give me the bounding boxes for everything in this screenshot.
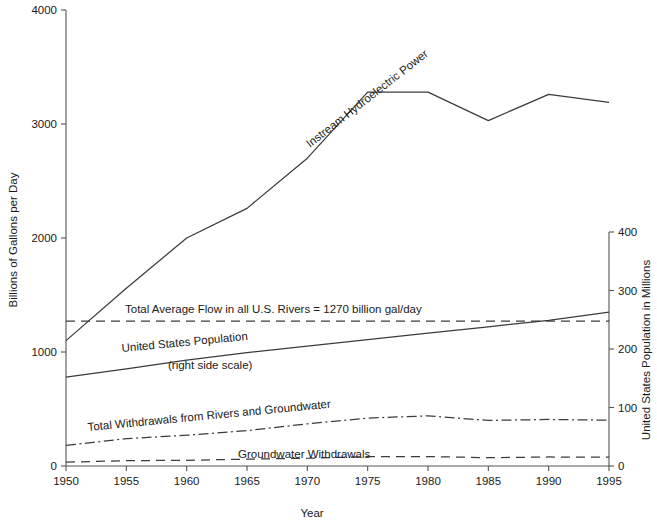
y-tick-label-right: 100 <box>618 402 637 414</box>
y-tick-label-left: 1000 <box>31 346 57 358</box>
y-tick-label-right: 300 <box>618 285 637 297</box>
annotation-population-sublabel: (right side scale) <box>168 359 253 371</box>
x-tick-label: 1970 <box>295 475 321 487</box>
y-tick-label-left: 3000 <box>31 118 57 130</box>
x-axis-title: Year <box>300 507 323 519</box>
annotation-withdrawals-label: Total Withdrawals from Rivers and Ground… <box>87 398 331 433</box>
x-tick-label: 1965 <box>234 475 260 487</box>
y-tick-label-left: 4000 <box>31 4 57 16</box>
y-axis-right-title: United States Population in Millions <box>640 260 652 441</box>
y-tick-label-right: 400 <box>618 226 637 238</box>
annotation-avgflow-label: Total Average Flow in all U.S. Rivers = … <box>125 303 422 315</box>
axes-group <box>66 10 609 466</box>
annotation-population-label: United States Population <box>121 330 248 354</box>
annotation-hydro-label: Instream Hydroelectric Power <box>304 47 430 149</box>
chart-annotations-group: Instream Hydroelectric PowerTotal Averag… <box>87 47 430 460</box>
x-tick-label: 1980 <box>415 475 441 487</box>
y-tick-label-left: 0 <box>51 460 57 472</box>
y-axis-left-ticks: 01000200030004000 <box>31 4 66 472</box>
x-axis-ticks: 1950195519601965197019751980198519901995 <box>53 466 622 487</box>
line-chart: 01000200030004000 0100200300400 19501955… <box>0 0 657 525</box>
y-axis-left-title: Billions of Gallons per Day <box>7 172 19 307</box>
x-tick-label: 1955 <box>114 475 140 487</box>
x-tick-label: 1960 <box>174 475 200 487</box>
y-tick-label-right: 0 <box>618 460 624 472</box>
x-tick-label: 1995 <box>596 475 622 487</box>
y-axis-right-ticks: 0100200300400 <box>609 226 637 472</box>
x-tick-label: 1990 <box>536 475 562 487</box>
x-tick-label: 1950 <box>53 475 79 487</box>
x-tick-label: 1975 <box>355 475 381 487</box>
y-tick-label-right: 200 <box>618 343 637 355</box>
chart-container: 01000200030004000 0100200300400 19501955… <box>0 0 657 525</box>
data-series-group <box>66 92 609 462</box>
y-tick-label-left: 2000 <box>31 232 57 244</box>
x-tick-label: 1985 <box>476 475 502 487</box>
annotation-groundwater-label: Groundwater Withdrawals <box>238 448 371 460</box>
